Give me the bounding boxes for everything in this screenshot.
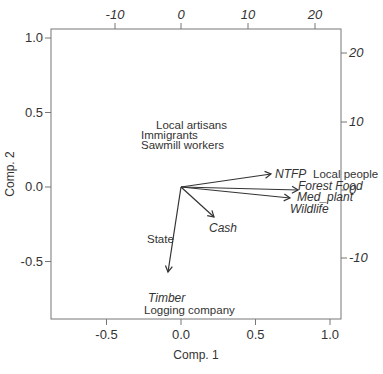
vector-arrow — [181, 174, 271, 187]
y-tick-label: 1.0 — [25, 30, 43, 45]
point-label: Logging company — [144, 304, 235, 316]
right-tick-label: -10 — [349, 250, 369, 265]
vector-arrow — [168, 187, 181, 272]
y-tick-label: 0.5 — [25, 105, 43, 120]
x-tick-label: 0.0 — [172, 327, 190, 342]
x-axis-label: Comp. 1 — [173, 348, 219, 362]
vector-label: Wildlife — [290, 202, 329, 216]
top-tick-label: 0 — [177, 7, 185, 22]
right-tick-label: 20 — [348, 45, 364, 60]
y-tick-label: 0.0 — [25, 179, 43, 194]
point-label: State — [147, 233, 174, 245]
point-label: Sawmill workers — [141, 139, 224, 151]
point-label: Local people — [313, 168, 378, 180]
y-axis-label: Comp. 2 — [3, 151, 17, 197]
vector-label: Timber — [148, 291, 186, 305]
y-tick-label: -0.5 — [21, 254, 43, 269]
loading-vectors: NTFPForest FoodMed_plantWildlifeCashTimb… — [148, 167, 363, 305]
x-tick-label: -0.5 — [95, 327, 117, 342]
vector-arrow — [181, 187, 214, 217]
vector-label: Cash — [209, 221, 237, 235]
x-tick-label: 0.5 — [246, 327, 264, 342]
top-tick-label: -10 — [106, 7, 126, 22]
top-tick-label: 20 — [307, 7, 323, 22]
x-tick-label: 1.0 — [321, 327, 339, 342]
right-tick-label: 10 — [349, 114, 364, 129]
top-tick-label: 10 — [241, 7, 256, 22]
biplot-chart: -0.50.00.51.0-0.50.00.51.0-100102020100-… — [0, 0, 383, 374]
